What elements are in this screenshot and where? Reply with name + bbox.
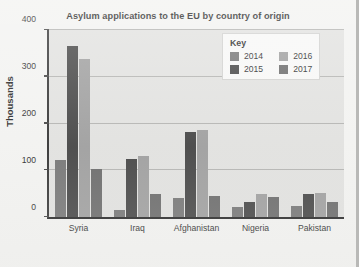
legend-label: 2015 [244,64,263,74]
legend-entries: 2014201620152017 [230,51,312,74]
bar-group: Iraq [108,30,167,217]
legend-label: 2016 [293,51,312,61]
bar [232,207,243,217]
y-tick-label: 400 [22,14,36,24]
scanned-page: Asylum applications to the EU by country… [0,0,359,267]
x-axis-category-label: Afghanistan [174,223,219,233]
bar [91,169,102,217]
legend-swatch-icon [279,52,288,61]
x-axis-category-label: Iraq [130,223,145,233]
bar [209,196,220,218]
bar [150,194,161,217]
y-tick-label: 300 [22,61,36,71]
legend-swatch-icon [230,52,239,61]
bar [79,59,90,217]
legend-entry-2017: 2017 [279,64,312,74]
bar [268,197,279,217]
y-tick-label: 200 [22,108,36,118]
x-axis-category-label: Syria [69,223,89,233]
bar [244,202,255,217]
bar-group: Afghanistan [167,30,226,217]
bar [114,210,125,217]
x-axis-category-label: Nigeria [242,223,269,233]
legend-entry-2016: 2016 [279,51,312,61]
bar [67,46,78,217]
bar [173,198,184,217]
bar [303,194,314,217]
legend-title: Key [230,38,312,48]
bar [197,130,208,217]
bar [327,202,338,217]
y-tick-label: 100 [22,155,36,165]
bar [138,156,149,217]
bar [55,160,66,217]
legend-swatch-icon [279,65,288,74]
bar-group: Syria [49,30,108,217]
bar [291,206,302,217]
bar [315,193,326,217]
legend-entry-2015: 2015 [230,64,263,74]
chart-title: Asylum applications to the EU by country… [0,11,356,21]
bar [126,159,137,217]
legend-swatch-icon [230,65,239,74]
x-axis-category-label: Pakistan [298,223,331,233]
bar-chart-figure: Asylum applications to the EU by country… [0,0,356,267]
y-tick-label: 0 [31,202,36,212]
legend-entry-2014: 2014 [230,51,263,61]
bar [185,132,196,217]
legend-label: 2014 [244,51,263,61]
y-axis-title: Thousands [4,67,15,137]
chart-legend: Key 2014201620152017 [222,33,320,80]
legend-label: 2017 [293,64,312,74]
bar [256,194,267,217]
